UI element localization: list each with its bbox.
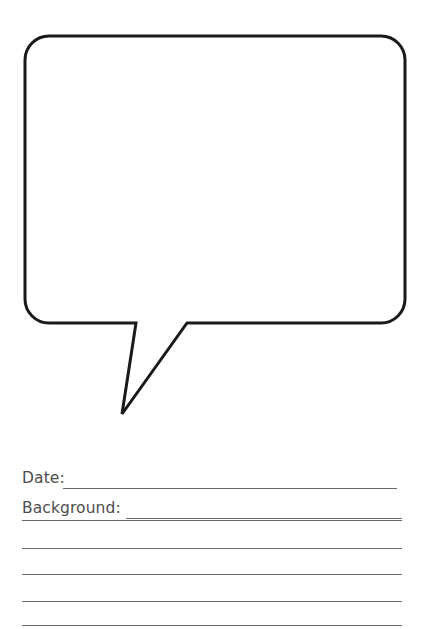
worksheet-page: Date: Background: — [0, 0, 424, 629]
field-row-date: Date: — [0, 468, 424, 492]
field-row-background: Background: — [0, 498, 424, 522]
ruled-line[interactable] — [22, 520, 402, 521]
speech-bubble-area — [0, 0, 424, 430]
ruled-line[interactable] — [22, 625, 402, 626]
ruled-line[interactable] — [22, 574, 402, 575]
form-area: Date: Background: — [0, 430, 424, 629]
ruled-line[interactable] — [22, 601, 402, 602]
background-label: Background: — [22, 498, 121, 518]
date-label: Date: — [22, 468, 65, 488]
date-input-rule[interactable] — [63, 488, 397, 489]
ruled-line[interactable] — [22, 548, 402, 549]
background-input-rule[interactable] — [126, 518, 402, 519]
speech-bubble[interactable] — [0, 0, 424, 430]
speech-bubble-outline — [25, 36, 405, 414]
